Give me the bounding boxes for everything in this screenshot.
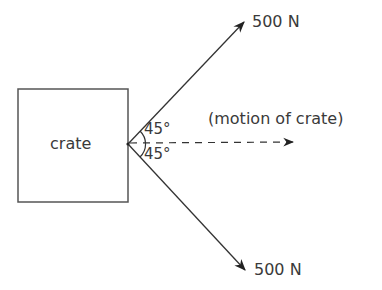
- force-label-bottom: 500 N: [254, 262, 302, 278]
- vertex-point: [126, 142, 129, 145]
- force-label-top: 500 N: [252, 14, 300, 30]
- motion-label: (motion of crate): [208, 111, 343, 127]
- motion-arrow: [130, 142, 293, 143]
- crate-label: crate: [50, 136, 91, 152]
- angle-label-bottom: 45°: [144, 147, 171, 162]
- angle-label-top: 45°: [144, 122, 171, 137]
